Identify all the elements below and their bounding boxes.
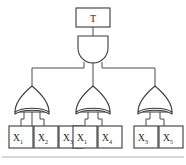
or-middle-input-2 [98,112,102,126]
basic-event-subscript: 4 [109,139,112,145]
or-left-input-3 [40,112,44,126]
bus-branch-left [32,68,84,86]
or-middle-input-1 [85,112,88,126]
fault-tree-canvas: T X1 [0,0,186,165]
fault-tree-figure: T X1 [0,0,186,165]
basic-event-subscript: 1 [20,139,23,145]
basic-event-subscript: 3 [145,139,148,145]
or-right-input-2 [160,112,164,126]
basic-event-subscript: 1 [84,139,87,145]
and-gate [78,36,108,63]
basic-event-subscript: 5 [170,139,173,145]
bus-branch-right [102,68,155,86]
top-event-label: T [90,13,96,24]
or-right-input-1 [146,112,150,126]
or-left-input-1 [21,112,24,126]
basic-event-subscript: 2 [45,139,48,145]
